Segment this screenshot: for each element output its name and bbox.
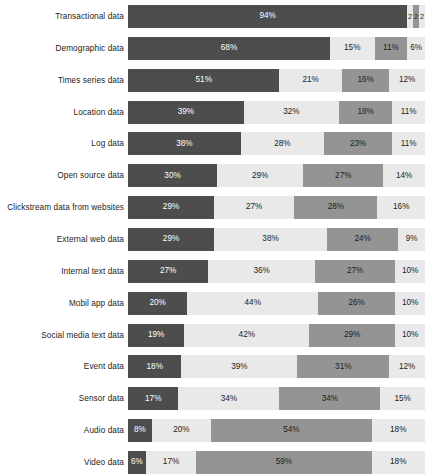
- bar-segment-2: 29%: [217, 164, 303, 187]
- chart-row: Social media text data19%42%29%10%: [0, 324, 434, 347]
- bar-segment-3: 28%: [294, 196, 377, 219]
- row-category-label: Social media text data: [0, 324, 128, 347]
- row-category-label: Internal text data: [0, 260, 128, 283]
- bar-segment-2: 20%: [152, 419, 211, 442]
- chart-row: Event data18%39%31%12%: [0, 355, 434, 378]
- chart-row: Demographic data68%15%11%6%: [0, 37, 434, 60]
- bar-segment-4: 2: [419, 5, 425, 28]
- bar-segment-4: 10%: [395, 324, 425, 347]
- stacked-bar: 29%27%28%16%: [128, 196, 425, 219]
- chart-row: Open source data30%29%27%14%: [0, 164, 434, 187]
- chart-row: Log data38%28%23%11%: [0, 132, 434, 155]
- bar-segment-2: 42%: [184, 324, 309, 347]
- row-category-label: Video data: [0, 451, 128, 474]
- chart-row: Times series data51%21%16%12%: [0, 69, 434, 92]
- bar-segment-2: 27%: [214, 196, 294, 219]
- chart-row: Audio data8%20%54%18%: [0, 419, 434, 442]
- bar-segment-3: 27%: [303, 164, 383, 187]
- bar-segment-1: 8%: [128, 419, 152, 442]
- row-category-label: Event data: [0, 355, 128, 378]
- bar-segment-3: 23%: [324, 132, 392, 155]
- bar-segment-3: 11%: [375, 37, 408, 60]
- chart-row: Video data6%17%59%18%: [0, 451, 434, 474]
- bar-segment-2: 39%: [181, 355, 297, 378]
- row-category-label: Sensor data: [0, 387, 128, 410]
- bar-segment-4: 18%: [372, 451, 425, 474]
- bar-segment-3: 27%: [315, 260, 395, 283]
- chart-row: Sensor data17%34%34%15%: [0, 387, 434, 410]
- row-category-label: Log data: [0, 132, 128, 155]
- bar-segment-4: 11%: [392, 132, 425, 155]
- bar-segment-4: 10%: [395, 292, 425, 315]
- bar-segment-1: 29%: [128, 196, 214, 219]
- stacked-bar: 68%15%11%6%: [128, 37, 425, 60]
- stacked-bar: 6%17%59%18%: [128, 451, 425, 474]
- row-category-label: Transactional data: [0, 5, 128, 28]
- chart-row: Mobil app data20%44%26%10%: [0, 292, 434, 315]
- bar-segment-4: 15%: [380, 387, 425, 410]
- stacked-bar: 39%32%18%11%: [128, 101, 425, 124]
- row-category-label: Clickstream data from websites: [0, 196, 128, 219]
- bar-segment-2: 36%: [208, 260, 315, 283]
- row-category-label: Open source data: [0, 164, 128, 187]
- bar-segment-4: 12%: [389, 69, 425, 92]
- bar-segment-2: 38%: [214, 228, 327, 251]
- row-category-label: External web data: [0, 228, 128, 251]
- stacked-bar: 29%38%24%9%: [128, 228, 425, 251]
- bar-segment-3: 34%: [279, 387, 380, 410]
- bar-segment-1: 68%: [128, 37, 330, 60]
- bar-segment-3: 31%: [297, 355, 389, 378]
- bar-segment-4: 18%: [372, 419, 425, 442]
- bar-segment-4: 6%: [407, 37, 425, 60]
- stacked-bar: 8%20%54%18%: [128, 419, 425, 442]
- stacked-bar: 51%21%16%12%: [128, 69, 425, 92]
- stacked-bar: 17%34%34%15%: [128, 387, 425, 410]
- chart-row: External web data29%38%24%9%: [0, 228, 434, 251]
- bar-segment-1: 39%: [128, 101, 244, 124]
- bar-segment-1: 29%: [128, 228, 214, 251]
- stacked-bar: 19%42%29%10%: [128, 324, 425, 347]
- bar-segment-4: 9%: [398, 228, 425, 251]
- bar-segment-1: 6%: [128, 451, 146, 474]
- bar-segment-1: 27%: [128, 260, 208, 283]
- bar-segment-2: 28%: [241, 132, 324, 155]
- bar-segment-2: 15%: [330, 37, 375, 60]
- bar-segment-2: 17%: [146, 451, 196, 474]
- row-category-label: Mobil app data: [0, 292, 128, 315]
- bar-segment-4: 16%: [377, 196, 425, 219]
- bar-segment-4: 14%: [383, 164, 425, 187]
- row-category-label: Demographic data: [0, 37, 128, 60]
- chart-row: Transactional data94%222: [0, 5, 434, 28]
- bar-segment-4: 10%: [395, 260, 425, 283]
- bar-segment-1: 30%: [128, 164, 217, 187]
- bar-segment-2: 34%: [178, 387, 279, 410]
- bar-segment-2: 32%: [244, 101, 339, 124]
- stacked-bar: 30%29%27%14%: [128, 164, 425, 187]
- chart-row: Clickstream data from websites29%27%28%1…: [0, 196, 434, 219]
- bar-segment-1: 17%: [128, 387, 178, 410]
- bar-segment-3: 59%: [196, 451, 371, 474]
- stacked-bar: 20%44%26%10%: [128, 292, 425, 315]
- bar-segment-3: 24%: [327, 228, 398, 251]
- bar-segment-3: 16%: [342, 69, 390, 92]
- stacked-bar: 94%222: [128, 5, 425, 28]
- bar-segment-1: 18%: [128, 355, 181, 378]
- stacked-bar: 27%36%27%10%: [128, 260, 425, 283]
- bar-segment-3: 29%: [309, 324, 395, 347]
- row-category-label: Times series data: [0, 69, 128, 92]
- bar-segment-1: 38%: [128, 132, 241, 155]
- bar-segment-2: 44%: [187, 292, 318, 315]
- bar-segment-2: 21%: [279, 69, 341, 92]
- bar-segment-1: 94%: [128, 5, 407, 28]
- bar-segment-1: 20%: [128, 292, 187, 315]
- bar-segment-3: 54%: [211, 419, 371, 442]
- row-category-label: Location data: [0, 101, 128, 124]
- chart-row: Location data39%32%18%11%: [0, 101, 434, 124]
- stacked-bar: 38%28%23%11%: [128, 132, 425, 155]
- bar-segment-4: 12%: [389, 355, 425, 378]
- bar-segment-1: 51%: [128, 69, 279, 92]
- bar-segment-3: 26%: [318, 292, 395, 315]
- bar-segment-1: 19%: [128, 324, 184, 347]
- stacked-bar: 18%39%31%12%: [128, 355, 425, 378]
- bar-segment-4: 11%: [392, 101, 425, 124]
